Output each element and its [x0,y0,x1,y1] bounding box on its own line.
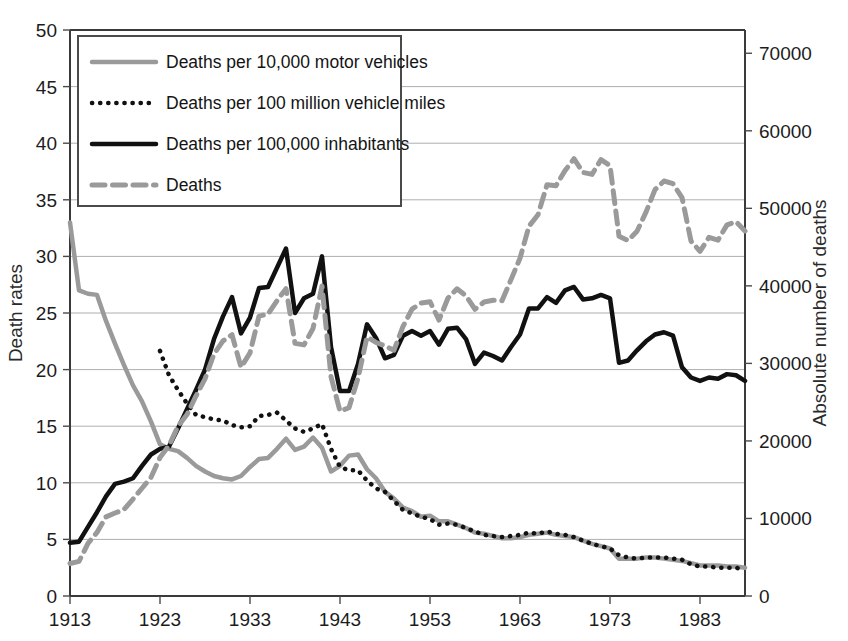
y-tick-label: 10 [36,473,57,494]
legend-label-2: Deaths per 100,000 inhabitants [166,134,409,154]
y2-tick-label: 40000 [759,276,812,297]
y-tick-label: 5 [46,529,57,550]
legend-label-3: Deaths [166,175,222,195]
y2-axis-title: Absolute number of deaths [809,199,830,426]
x-tick-label: 1963 [499,609,541,630]
y-tick-label: 20 [36,360,57,381]
series-line-1 [160,351,745,570]
y2-tick-label: 20000 [759,431,812,452]
x-tick-label: 1923 [139,609,181,630]
right-axis-ticks: 010000200003000040000500006000070000 [745,43,812,607]
x-tick-label: 1943 [319,609,361,630]
chart-container: 05101520253035404550 0100002000030000400… [0,0,848,641]
legend-label-1: Deaths per 100 million vehicle miles [166,93,445,113]
y2-tick-label: 30000 [759,353,812,374]
left-axis-ticks: 05101520253035404550 [36,20,70,607]
y-tick-label: 25 [36,303,57,324]
legend-label-0: Deaths per 10,000 motor vehicles [166,52,428,72]
line-chart: 05101520253035404550 0100002000030000400… [0,0,848,641]
y-tick-label: 50 [36,20,57,41]
y-axis-title: Death rates [5,264,26,362]
x-tick-label: 1953 [409,609,451,630]
y-tick-label: 35 [36,190,57,211]
series-line-0 [70,222,745,567]
x-tick-label: 1973 [589,609,631,630]
y-tick-label: 15 [36,416,57,437]
y-tick-label: 30 [36,246,57,267]
x-tick-label: 1983 [679,609,721,630]
x-tick-label: 1913 [49,609,91,630]
series-line-3 [70,159,745,564]
y2-tick-label: 70000 [759,43,812,64]
y-tick-label: 45 [36,77,57,98]
legend: Deaths per 10,000 motor vehiclesDeaths p… [78,36,445,206]
x-axis-ticks: 19131923193319431953196319731983 [49,596,721,630]
data-series-group [70,159,745,570]
y2-tick-label: 10000 [759,508,812,529]
series-line-2 [70,248,745,542]
y-tick-label: 0 [46,586,57,607]
y2-tick-label: 60000 [759,121,812,142]
y2-tick-label: 50000 [759,198,812,219]
x-tick-label: 1933 [229,609,271,630]
y-tick-label: 40 [36,133,57,154]
y2-tick-label: 0 [759,586,770,607]
